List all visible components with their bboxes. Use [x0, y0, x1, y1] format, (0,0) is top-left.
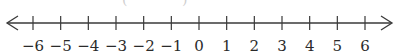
tick-label: 4	[305, 37, 315, 55]
tick-label: −6	[22, 37, 44, 55]
tick-label: −1	[160, 37, 182, 55]
tick-label: −2	[133, 37, 155, 55]
tick-label: 2	[250, 37, 260, 55]
cropped-text-artifact: (	[122, 0, 127, 7]
tick-label: 3	[277, 37, 287, 55]
tick-label: 5	[333, 37, 343, 55]
tick-label: 1	[222, 37, 232, 55]
tick-label: 6	[360, 37, 370, 55]
tick-label: −4	[77, 37, 99, 55]
tick-label: 0	[194, 37, 204, 55]
tick-label-group: −6−5−4−3−2−10123456	[22, 37, 370, 55]
tick-label: −3	[105, 37, 127, 55]
tick-label: −5	[50, 37, 72, 55]
number-line: ( ) −6−5−4−3−2−10123456	[0, 0, 401, 56]
cropped-text-artifact: )	[182, 0, 187, 7]
